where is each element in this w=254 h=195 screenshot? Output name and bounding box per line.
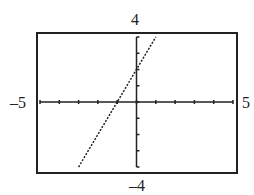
- graph-window: [0, 0, 254, 195]
- axes: [40, 37, 233, 167]
